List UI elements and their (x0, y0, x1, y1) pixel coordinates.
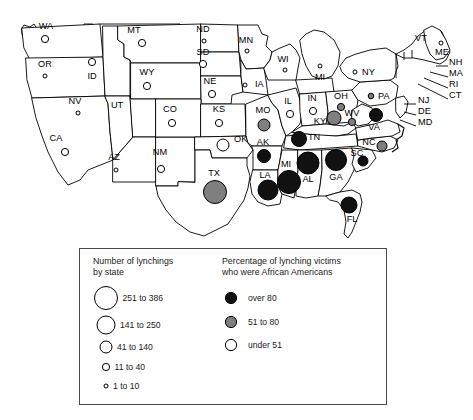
legend: Number of lynchings by state Percentage … (80, 249, 387, 405)
legend-size-label-1: 141 to 250 (120, 320, 161, 330)
state-label-az: AZ (108, 152, 120, 162)
state-label-ca: CA (50, 133, 64, 143)
state-label-fl: FL (347, 214, 358, 224)
state-label-nd: ND (196, 24, 210, 34)
legend-size-label-2: 41 to 140 (117, 342, 153, 352)
state-label-co: CO (163, 104, 177, 114)
state-label-ma: MA (449, 68, 464, 78)
state-label-ky: KY (314, 116, 326, 126)
symbol-al (297, 152, 319, 174)
state-label-in: IN (307, 93, 316, 103)
symbol-il (286, 110, 293, 117)
state-label-sc: SC (351, 148, 364, 158)
state-label-or: OR (38, 59, 52, 69)
state-label-wa: WA (39, 21, 54, 31)
state-label-tn: TN (308, 132, 320, 142)
legend-size-swatch-3 (102, 363, 109, 370)
state-label-ri: RI (449, 79, 458, 89)
legend-size-label-4: 1 to 10 (113, 381, 140, 391)
legend-size-title-line1: Number of lynchings (93, 256, 174, 266)
symbol-nv (76, 111, 80, 115)
state-label-ak: AK (257, 137, 270, 147)
state-label-va: VA (368, 122, 380, 132)
state-label-nh: NH (449, 57, 462, 67)
symbol-id (88, 58, 95, 65)
state-label-wv: WV (345, 108, 361, 118)
symbol-la (258, 180, 278, 200)
symbol-ky (327, 111, 341, 125)
state-label-wy: WY (140, 67, 155, 77)
symbol-va (370, 109, 383, 122)
state-label-al: AL (302, 174, 313, 184)
legend-pct-swatch-1 (225, 316, 236, 327)
symbol-ia (243, 83, 247, 87)
state-label-ne: NE (204, 76, 217, 86)
legend-pct-title-line1: Percentage of lynching victims (222, 256, 341, 266)
state-label-ok: OK (234, 134, 248, 144)
state-label-nj: NJ (418, 95, 429, 105)
legend-size-swatch-1 (97, 316, 115, 334)
symbol-ca (61, 148, 68, 155)
state-label-oh: OH (334, 91, 348, 101)
symbol-ok (217, 139, 229, 151)
legend-size-label-0: 251 to 386 (123, 293, 164, 303)
symbol-ks (215, 119, 222, 126)
state-label-ks: KS (213, 104, 225, 114)
state-label-mt: MT (127, 25, 141, 35)
lynchings-by-state-map-figure: WAORIDMTWYNVUTCAAZNMCONDSDNEKSOKTXMNIAWI… (0, 0, 473, 420)
legend-pct-entries: over 8051 to 80under 51 (225, 292, 282, 350)
state-label-mo: MO (256, 105, 271, 115)
state-label-ut: UT (111, 100, 124, 110)
legend-size-swatch-2 (100, 341, 112, 353)
state-label-de: DE (418, 106, 431, 116)
state-label-mi: MI (281, 159, 291, 169)
state-label-sd: SD (197, 47, 210, 57)
symbol-ny (353, 70, 357, 74)
symbol-sd (199, 60, 206, 67)
legend-pct-label-1: 51 to 80 (248, 317, 279, 327)
symbol-tn (292, 132, 307, 147)
legend-size-label-3: 11 to 40 (115, 362, 146, 372)
state-label-pa: PA (378, 91, 390, 101)
symbol-fl (341, 197, 357, 213)
symbol-ne (208, 90, 215, 97)
state-label-ia: IA (255, 79, 265, 89)
symbol-ak (258, 150, 271, 163)
symbol-or (43, 74, 47, 78)
state-label-tx: TX (208, 168, 220, 178)
symbol-ga (326, 150, 347, 171)
symbol-mo (258, 119, 270, 131)
legend-size-swatch-4 (104, 384, 108, 388)
symbol-mt (138, 39, 145, 46)
legend-pct-label-2: under 51 (248, 340, 282, 350)
symbol-nm (157, 165, 164, 172)
symbol-az (114, 168, 118, 172)
symbol-oh (337, 103, 344, 110)
symbol-mi (318, 64, 322, 68)
symbol-tx (204, 181, 227, 204)
symbol-wy (143, 82, 150, 89)
state-label-ct: CT (449, 90, 462, 100)
state-label-ga: GA (329, 172, 343, 182)
legend-size-swatch-0 (95, 287, 118, 310)
legend-pct-swatch-0 (225, 292, 236, 303)
state-label-il: IL (284, 96, 292, 106)
state-label-nc: NC (362, 137, 376, 147)
legend-pct-swatch-2 (225, 339, 236, 350)
legend-size-title-line2: by state (93, 267, 124, 277)
state-label-me: ME (435, 47, 449, 57)
state-label-nv: NV (69, 96, 83, 106)
symbol-co (168, 119, 175, 126)
state-label-wi: WI (277, 54, 288, 64)
symbol-nd (202, 39, 206, 43)
state-label-id: ID (87, 71, 97, 81)
legend-pct-title-line2: who were African Americans (221, 267, 333, 277)
symbol-pa (368, 93, 374, 99)
state-label-mi: MI (315, 72, 325, 82)
state-label-mn: MN (239, 35, 253, 45)
symbol-mn (245, 49, 249, 53)
state-label-nm: NM (153, 147, 167, 157)
state-label-ny: NY (362, 67, 375, 77)
symbol-mi (278, 171, 301, 194)
legend-size-entries: 251 to 386141 to 25041 to 14011 to 401 t… (95, 287, 164, 392)
